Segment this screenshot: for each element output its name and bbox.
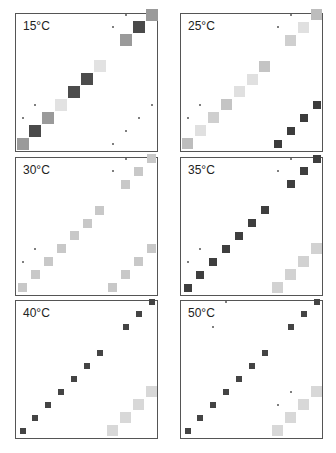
diagonal-contact-square: [311, 9, 322, 20]
diagonal-contact-square: [120, 34, 132, 46]
panel-p50: 50°C: [180, 300, 323, 439]
diagonal-contact-square: [235, 232, 243, 240]
contact-dot: [290, 14, 292, 16]
anti-diagonal-contact-square: [134, 257, 143, 266]
contact-dot: [34, 104, 36, 106]
diagonal-contact-square: [234, 86, 245, 97]
contact-dot: [187, 117, 189, 119]
panel-temperature-label: 30°C: [23, 164, 50, 176]
contact-dot: [290, 158, 292, 160]
anti-diagonal-contact-square: [298, 399, 309, 410]
diagonal-contact-square: [146, 9, 158, 21]
contact-dot: [112, 170, 114, 172]
contact-dot: [277, 404, 279, 406]
contact-dot: [34, 248, 36, 250]
diagonal-contact-square: [149, 299, 155, 305]
anti-diagonal-contact-square: [300, 114, 308, 122]
diagonal-contact-square: [196, 271, 204, 279]
diagonal-contact-square: [94, 60, 106, 72]
diagonal-contact-square: [58, 389, 64, 395]
contact-dot: [151, 104, 153, 106]
contact-dot: [22, 261, 24, 263]
diagonal-contact-square: [261, 206, 269, 214]
diagonal-contact-square: [70, 231, 79, 240]
diagonal-contact-square: [20, 428, 26, 434]
diagonal-contact-square: [300, 167, 308, 175]
contact-dot: [22, 117, 24, 119]
diagonal-contact-square: [83, 219, 92, 228]
panel-p30: 30°C: [15, 157, 158, 296]
contact-dot: [199, 248, 201, 250]
diagonal-contact-square: [133, 21, 145, 33]
contact-dot: [125, 130, 127, 132]
diagonal-contact-square: [121, 180, 130, 189]
anti-diagonal-contact-square: [274, 140, 282, 148]
diagonal-contact-square: [185, 428, 191, 434]
diagonal-contact-square: [197, 415, 203, 421]
diagonal-contact-square: [248, 219, 256, 227]
diagonal-contact-square: [209, 258, 217, 266]
diagonal-contact-square: [32, 415, 38, 421]
diagonal-contact-square: [55, 99, 67, 111]
contact-dot: [277, 170, 279, 172]
diagonal-contact-square: [210, 402, 216, 408]
diagonal-contact-square: [236, 376, 242, 382]
contact-dot: [212, 326, 214, 328]
anti-diagonal-contact-square: [272, 282, 283, 293]
diagonal-contact-square: [208, 112, 219, 123]
contact-dot: [199, 104, 201, 106]
anti-diagonal-contact-square: [287, 127, 295, 135]
contact-dot: [125, 14, 127, 16]
diagonal-contact-square: [182, 138, 193, 149]
diagonal-contact-square: [288, 324, 294, 330]
anti-diagonal-contact-square: [120, 412, 131, 423]
diagonal-contact-square: [81, 73, 93, 85]
diagonal-contact-square: [18, 283, 27, 292]
diagonal-contact-square: [223, 389, 229, 395]
diagonal-contact-square: [195, 125, 206, 136]
contact-dot: [225, 301, 227, 303]
panel-temperature-label: 25°C: [188, 20, 215, 32]
diagonal-contact-square: [123, 324, 129, 330]
diagonal-contact-square: [134, 167, 143, 176]
diagonal-contact-square: [84, 363, 90, 369]
contact-dot: [277, 26, 279, 28]
contact-dot: [125, 158, 127, 160]
diagonal-contact-square: [57, 244, 66, 253]
diagonal-contact-square: [301, 311, 307, 317]
diagonal-contact-square: [29, 125, 41, 137]
diagonal-contact-square: [45, 402, 51, 408]
diagonal-contact-square: [221, 99, 232, 110]
anti-diagonal-contact-square: [311, 386, 322, 397]
diagonal-contact-square: [285, 35, 296, 46]
diagonal-contact-square: [97, 350, 103, 356]
diagonal-contact-square: [95, 206, 104, 215]
diagonal-contact-square: [71, 376, 77, 382]
diagonal-contact-square: [68, 86, 80, 98]
anti-diagonal-contact-square: [272, 425, 283, 436]
anti-diagonal-contact-square: [108, 283, 117, 292]
panel-temperature-label: 15°C: [23, 20, 50, 32]
diagonal-contact-square: [17, 138, 29, 150]
anti-diagonal-contact-square: [146, 386, 157, 397]
panel-p40: 40°C: [15, 300, 158, 439]
contact-dot: [112, 26, 114, 28]
diagonal-contact-square: [184, 284, 192, 292]
panel-temperature-label: 35°C: [188, 164, 215, 176]
anti-diagonal-contact-square: [285, 269, 296, 280]
anti-diagonal-contact-square: [133, 399, 144, 410]
anti-diagonal-contact-square: [298, 256, 309, 267]
diagonal-contact-square: [287, 180, 295, 188]
panel-p15: 15°C: [15, 13, 158, 152]
diagonal-contact-square: [314, 299, 320, 305]
panel-temperature-label: 50°C: [188, 307, 215, 319]
diagonal-contact-square: [298, 22, 309, 33]
diagonal-contact-square: [259, 61, 270, 72]
diagonal-contact-square: [31, 270, 40, 279]
anti-diagonal-contact-square: [311, 243, 322, 254]
anti-diagonal-contact-square: [285, 412, 296, 423]
diagonal-contact-square: [147, 154, 156, 163]
diagonal-contact-square: [247, 74, 258, 85]
contact-dot: [290, 391, 292, 393]
contact-dot: [187, 261, 189, 263]
